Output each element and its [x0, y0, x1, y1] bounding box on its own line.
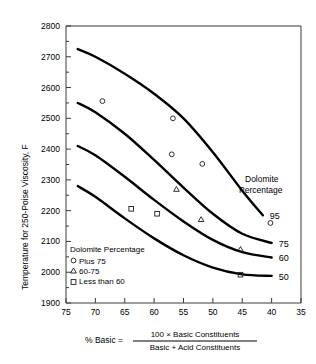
x-tick-label: 75 [61, 307, 71, 317]
x-tick-label: 60 [149, 307, 159, 317]
caption-numerator: 100 × Basic Constituents [151, 330, 240, 339]
curve-50 [78, 186, 272, 276]
curve-label-75: 75 [279, 239, 289, 249]
y-tick-label: 2500 [41, 113, 60, 123]
legend-label-60-75: 60-75 [79, 267, 100, 276]
marker-circle [169, 152, 174, 157]
caption-denominator: Basic + Acid Constituents [150, 343, 241, 352]
x-axis: 757065605550454035 [61, 298, 306, 317]
x-tick-label: 70 [91, 307, 101, 317]
curve-label-50: 50 [279, 272, 289, 282]
marker-square [129, 207, 134, 212]
marker-circle [171, 116, 176, 121]
curve-60 [78, 146, 272, 257]
chart-canvas: 1900200021002200230024002500260027002800… [0, 0, 316, 364]
marker-circle [100, 99, 105, 104]
legend-circle-icon [71, 258, 76, 263]
legend: Dolomite Percentage Plus 75 60-75 Less t… [70, 245, 145, 286]
legend-square-icon [71, 280, 76, 285]
x-tick-label: 40 [267, 307, 277, 317]
marker-triangle [174, 187, 180, 192]
legend-label-less-than-60: Less than 60 [79, 277, 125, 286]
x-tick-label: 35 [296, 307, 306, 317]
y-tick-label: 2200 [41, 206, 60, 216]
x-tick-label: 65 [120, 307, 130, 317]
caption-lhs: % Basic = [85, 335, 123, 345]
curve-label-95: 95 [270, 211, 280, 221]
y-tick-label: 2700 [41, 52, 60, 62]
x-tick-label: 50 [208, 307, 218, 317]
curve-95 [78, 49, 263, 215]
curve-label-60: 60 [279, 253, 289, 263]
y-tick-label: 1900 [41, 298, 60, 308]
y-tick-label: 2600 [41, 83, 60, 93]
y-axis-title: Temperature for 250-Poise Viscosity, F [20, 144, 30, 290]
legend-title: Dolomite Percentage [70, 245, 145, 254]
y-axis: 1900200021002200230024002500260027002800 [41, 21, 71, 308]
side-note-line-2: Percentage [239, 185, 283, 195]
y-tick-label: 2800 [41, 21, 60, 31]
marker-square [155, 211, 160, 216]
x-tick-label: 45 [238, 307, 248, 317]
legend-triangle-icon [71, 268, 77, 273]
side-note-line-1: Dolomite [245, 174, 279, 184]
y-axis-title-text: Temperature for 250-Poise Viscosity, F [20, 144, 30, 290]
legend-label-plus-75: Plus 75 [79, 257, 106, 266]
curve-75 [78, 103, 272, 243]
x-tick-label: 55 [179, 307, 189, 317]
marker-circle [200, 161, 205, 166]
y-tick-label: 2300 [41, 175, 60, 185]
marker-triangle [198, 217, 204, 222]
y-tick-label: 2000 [41, 267, 60, 277]
y-tick-label: 2100 [41, 236, 60, 246]
side-note-dolomite-percentage: Dolomite Percentage [239, 174, 283, 195]
x-axis-caption: % Basic = 100 × Basic Constituents Basic… [85, 330, 257, 352]
marker-circle [268, 221, 273, 226]
curve-series-group [78, 49, 272, 276]
y-tick-label: 2400 [41, 144, 60, 154]
chart-figure: 1900200021002200230024002500260027002800… [0, 0, 316, 364]
